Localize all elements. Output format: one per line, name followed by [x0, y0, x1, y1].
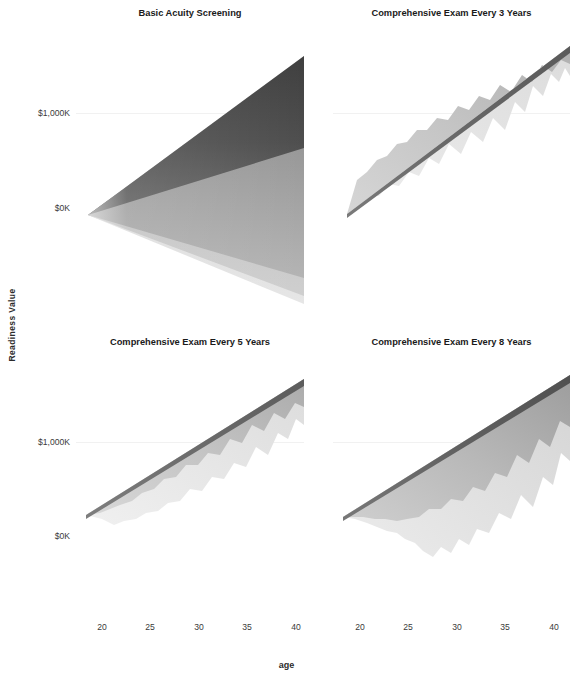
panel-title-bottom-left: Comprehensive Exam Every 5 Years [76, 337, 304, 347]
x-tick-label-right-30: 30 [442, 622, 472, 632]
fan-band-top-right [333, 38, 570, 328]
panel-comprehensive-exam-8-years: Comprehensive Exam Every 8 Years [333, 337, 570, 627]
x-tick-label-left-35: 35 [232, 622, 262, 632]
panel-comprehensive-exam-3-years: Comprehensive Exam Every 3 Years [333, 8, 570, 318]
y-tick-label-1000k-bottom: $1,000K [0, 437, 70, 447]
y-tick-label-0k-bottom: $0K [0, 531, 70, 541]
x-tick-label-left-25: 25 [135, 622, 165, 632]
panel-comprehensive-exam-5-years: Comprehensive Exam Every 5 Years [76, 337, 304, 627]
panel-basic-acuity-screening: Basic Acuity Screening [76, 8, 304, 318]
x-tick-label-left-30: 30 [184, 622, 214, 632]
fan-band-top-left [76, 38, 304, 328]
x-axis-title: age [0, 660, 573, 670]
panel-title-top-right: Comprehensive Exam Every 3 Years [333, 8, 570, 18]
plot-area-bottom-right [333, 367, 570, 627]
x-tick-label-right-25: 25 [393, 622, 423, 632]
fan-band-bottom-left [76, 367, 304, 627]
fan-band-bottom-right [333, 367, 570, 627]
x-tick-label-left-20: 20 [87, 622, 117, 632]
plot-area-top-right [333, 38, 570, 328]
x-tick-label-right-40: 40 [539, 622, 569, 632]
x-tick-label-left-40: 40 [281, 622, 311, 632]
plot-area-bottom-left [76, 367, 304, 627]
x-tick-label-right-20: 20 [345, 622, 375, 632]
y-tick-label-0k-top: $0K [0, 203, 70, 213]
plot-area-top-left [76, 38, 304, 328]
panel-title-top-left: Basic Acuity Screening [76, 8, 304, 18]
x-tick-label-right-35: 35 [490, 622, 520, 632]
fan-chart-figure: Readiness Value $1,000K $0K $1,000K $0K … [0, 0, 573, 689]
y-tick-label-1000k-top: $1,000K [0, 108, 70, 118]
y-axis-title: Readiness Value [7, 280, 17, 370]
panel-title-bottom-right: Comprehensive Exam Every 8 Years [333, 337, 570, 347]
